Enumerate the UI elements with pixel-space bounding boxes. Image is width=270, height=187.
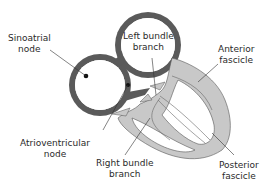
right-bundle-line2: branch [96,169,153,180]
right-bundle-line1: Right bundle [96,158,153,169]
left-bundle-line1: Left bundle [123,31,174,42]
label-right-bundle-branch: Right bundle branch [96,158,153,180]
ventricles [112,58,230,159]
sinoatrial-line2: node [8,44,51,55]
posterior-line2: fascicle [219,171,259,182]
atrioventricular-line1: Atrioventricular [20,138,90,149]
anterior-line2: fascicle [218,55,254,66]
label-atrioventricular-node: Atrioventricular node [20,138,90,160]
label-sinoatrial-node: Sinoatrial node [8,33,51,55]
atrioventricular-line2: node [20,149,90,160]
sinoatrial-line1: Sinoatrial [8,33,51,44]
posterior-line1: Posterior [219,160,259,171]
anterior-line1: Anterior [218,44,254,55]
label-anterior-fascicle: Anterior fascicle [218,44,254,66]
label-posterior-fascicle: Posterior fascicle [219,160,259,182]
left-bundle-line2: branch [123,42,174,53]
label-left-bundle-branch: Left bundle branch [123,31,174,53]
